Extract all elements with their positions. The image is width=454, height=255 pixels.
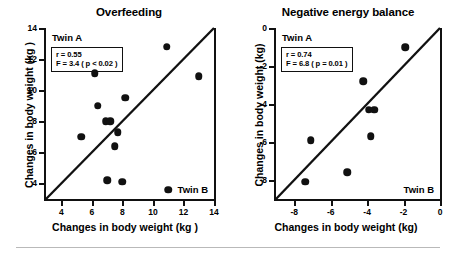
y-tick-label: 14 (28, 23, 37, 33)
panel-negative-energy-balance: Negative energy balance Changes in body … (232, 0, 454, 241)
data-point (367, 133, 375, 141)
x-tick-label: 6 (89, 207, 94, 217)
x-tick-mark (294, 199, 296, 206)
y-tick-mark (39, 59, 46, 61)
data-point (163, 43, 171, 51)
data-point (360, 77, 368, 85)
x-tick-mark (61, 199, 63, 206)
x-tick-mark (153, 199, 155, 206)
y-tick-mark (39, 183, 46, 185)
x-tick-mark (440, 199, 442, 206)
plot-wrap: Twin A Twin B r = 0.55 F = 3.4 ( p < 0.0… (44, 28, 216, 201)
data-point (91, 69, 99, 77)
stats-box: r = 0.74 F = 6.8 ( p = 0.01 ) (281, 47, 353, 72)
y-tick-label: 8 (32, 116, 37, 126)
y-tick-label: 0 (262, 23, 267, 33)
data-point (371, 106, 379, 114)
data-point (77, 133, 85, 141)
twin-weight-change-figure: Overfeeding Changes in body weight (kg )… (0, 0, 454, 255)
twin-a-label: Twin A (52, 32, 82, 43)
data-point (114, 128, 122, 136)
y-tick-label: 12 (28, 54, 37, 64)
x-tick-mark (183, 199, 185, 206)
x-tick-mark (214, 199, 216, 206)
data-point (164, 186, 172, 194)
y-tick-label: 4 (32, 178, 37, 188)
y-axis-title-host: Changes in body weight (kg) (240, 28, 254, 201)
x-axis-title: Changes in body weight (kg ) (0, 221, 232, 233)
y-tick-mark (39, 28, 46, 30)
x-tick-label: 12 (179, 207, 188, 217)
data-point (301, 178, 309, 186)
y-tick-label: -8 (259, 175, 267, 185)
data-point (343, 169, 351, 177)
y-tick-label: -2 (259, 61, 267, 71)
x-tick-label: -6 (327, 207, 335, 217)
data-point (111, 142, 119, 150)
data-point (103, 177, 111, 185)
stat-r: r = 0.55 (56, 50, 117, 59)
y-tick-mark (269, 180, 276, 182)
data-point (122, 94, 130, 102)
plot-wrap: Twin A Twin B r = 0.74 F = 6.8 ( p = 0.0… (274, 28, 442, 201)
panel-title: Overfeeding (0, 6, 232, 18)
y-tick-label: -6 (259, 137, 267, 147)
y-tick-label: -4 (259, 99, 267, 109)
y-tick-mark (269, 104, 276, 106)
twin-a-label: Twin A (282, 32, 312, 43)
y-tick-mark (269, 142, 276, 144)
panel-overfeeding: Overfeeding Changes in body weight (kg )… (0, 0, 232, 241)
stats-box: r = 0.55 F = 3.4 ( p < 0.02 ) (51, 47, 123, 72)
x-tick-mark (92, 199, 94, 206)
x-tick-label: -8 (290, 207, 298, 217)
stat-f: F = 6.8 ( p = 0.01 ) (286, 59, 347, 68)
x-tick-label: 4 (59, 207, 64, 217)
x-tick-label: -4 (363, 207, 371, 217)
x-tick-mark (367, 199, 369, 206)
plot-area: Twin A Twin B r = 0.74 F = 6.8 ( p = 0.0… (274, 28, 442, 201)
data-point (307, 136, 315, 144)
twin-b-label: Twin B (404, 184, 434, 195)
y-tick-mark (39, 152, 46, 154)
x-axis-title: Changes in body weight (kg) (232, 221, 454, 233)
y-tick-mark (269, 66, 276, 68)
stat-f: F = 3.4 ( p < 0.02 ) (56, 59, 117, 68)
x-tick-label: 8 (120, 207, 125, 217)
x-tick-mark (404, 199, 406, 206)
x-tick-label: 14 (209, 207, 218, 217)
y-tick-mark (269, 28, 276, 30)
data-point (119, 178, 127, 186)
data-point (402, 43, 410, 51)
twin-b-label: Twin B (178, 184, 208, 195)
data-point (106, 118, 114, 126)
y-axis-title-host: Changes in body weight (kg ) (10, 28, 24, 201)
x-tick-label: -2 (400, 207, 408, 217)
x-tick-label: 0 (438, 207, 443, 217)
panel-title: Negative energy balance (232, 6, 454, 18)
data-point (94, 102, 102, 110)
x-tick-label: 10 (148, 207, 157, 217)
y-tick-label: 10 (28, 85, 37, 95)
stat-r: r = 0.74 (286, 50, 347, 59)
y-tick-mark (39, 90, 46, 92)
y-tick-mark (39, 121, 46, 123)
plot-area: Twin A Twin B r = 0.55 F = 3.4 ( p < 0.0… (44, 28, 216, 201)
y-tick-label: 6 (32, 147, 37, 157)
x-tick-mark (122, 199, 124, 206)
x-tick-mark (331, 199, 333, 206)
data-point (195, 72, 203, 80)
footer-divider (16, 247, 440, 248)
